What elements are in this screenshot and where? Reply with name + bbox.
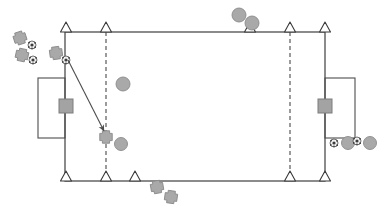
cross-left-3[interactable] [49, 46, 63, 60]
ball-left-1-patch-4 [34, 46, 36, 48]
ball-right-1[interactable] [330, 139, 338, 147]
ball-left-3[interactable] [62, 56, 70, 64]
ball-left-1-patch-1 [34, 42, 36, 44]
cross-left-1[interactable] [12, 30, 28, 46]
ball-left-3-patch-1 [68, 57, 70, 59]
ball-left-1-patch-0 [28, 42, 30, 44]
ball-right-1-patch-1 [336, 140, 338, 142]
ball-right-1-patch-4 [336, 144, 338, 146]
cross-left-2[interactable] [15, 48, 30, 63]
ball-left-2-patch-3 [29, 61, 31, 63]
cone-top-1[interactable] [61, 22, 72, 32]
ball-left-2-patch-2 [32, 62, 34, 64]
right-goal[interactable] [318, 99, 332, 113]
ball-right-1-patch-center [332, 141, 335, 144]
marker-right-2[interactable] [364, 137, 377, 150]
ball-right-2-patch-center [355, 139, 358, 142]
ball-right-2-patch-0 [353, 138, 355, 140]
cross-bottom-1[interactable] [150, 180, 164, 194]
marker-center-cross[interactable] [115, 138, 128, 151]
cone-bottom-3[interactable] [130, 171, 141, 181]
cone-bottom-5[interactable] [320, 171, 331, 181]
marker-right-1[interactable] [342, 137, 355, 150]
ball-right-2[interactable] [353, 137, 361, 145]
cross-bottom-2[interactable] [164, 190, 178, 204]
field-diagram-svg [0, 0, 391, 213]
ball-left-3-patch-center [64, 58, 67, 61]
ball-right-1-patch-3 [330, 144, 332, 146]
ball-left-3-patch-2 [65, 62, 67, 64]
cone-top-2[interactable] [101, 22, 112, 32]
marker-top-2[interactable] [245, 16, 259, 30]
ball-right-1-patch-0 [330, 140, 332, 142]
ball-right-2-patch-4 [359, 142, 361, 144]
ball-left-1[interactable] [28, 41, 36, 49]
diagram-canvas [0, 0, 391, 213]
cone-top-4[interactable] [285, 22, 296, 32]
marker-mid-field[interactable] [116, 77, 130, 91]
cross-center[interactable] [100, 131, 112, 143]
ball-right-2-patch-3 [353, 142, 355, 144]
left-goal[interactable] [59, 99, 73, 113]
ball-right-2-patch-1 [359, 138, 361, 140]
ball-left-2-patch-4 [35, 61, 37, 63]
ball-right-2-patch-2 [356, 143, 358, 145]
run-arrow [68, 60, 104, 131]
marker-top-1[interactable] [232, 8, 246, 22]
ball-left-1-patch-2 [31, 47, 33, 49]
ball-left-1-patch-center [30, 43, 33, 46]
ball-right-1-patch-2 [333, 145, 335, 147]
ball-left-2-patch-center [31, 58, 34, 61]
ball-left-2-patch-1 [35, 57, 37, 59]
ball-left-2-patch-0 [29, 57, 31, 59]
playing-area [65, 32, 325, 181]
cone-top-5[interactable] [320, 22, 331, 32]
cone-bottom-2[interactable] [101, 171, 112, 181]
ball-left-3-patch-3 [62, 61, 64, 63]
ball-left-1-patch-3 [28, 46, 30, 48]
ball-left-3-patch-0 [62, 57, 64, 59]
cone-bottom-1[interactable] [61, 171, 72, 181]
cone-bottom-4[interactable] [285, 171, 296, 181]
ball-left-2[interactable] [29, 56, 37, 64]
